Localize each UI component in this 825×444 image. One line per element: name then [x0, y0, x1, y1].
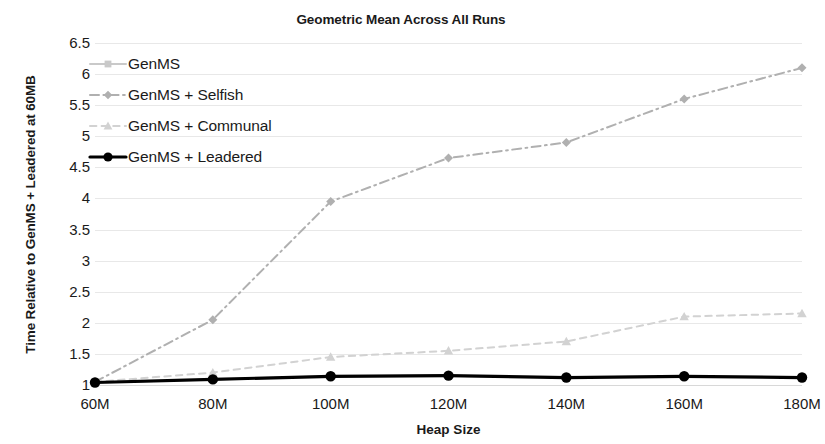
data-point-marker: [105, 60, 112, 67]
data-point-marker: [680, 94, 689, 103]
legend-item-label: GenMS: [128, 55, 180, 73]
legend-item-genms-communal[interactable]: GenMS + Communal: [88, 110, 338, 141]
y-tick-label: 5.5: [44, 97, 90, 112]
legend-item-label: GenMS + Selfish: [128, 86, 243, 104]
data-point-marker: [90, 377, 100, 387]
x-tick-label: 140M: [526, 395, 606, 412]
data-point-marker: [798, 63, 807, 72]
data-point-marker: [103, 152, 112, 161]
legend-item-genms-selfish[interactable]: GenMS + Selfish: [88, 79, 338, 110]
data-point-marker: [561, 372, 571, 382]
y-tick-label: 5: [44, 128, 90, 143]
y-tick-label: 2.5: [44, 284, 90, 299]
y-tick-label: 1.5: [44, 346, 90, 361]
x-tick-label: 100M: [291, 395, 371, 412]
y-tick-label: 4.5: [44, 159, 90, 174]
y-tick-label: 6.5: [44, 35, 90, 50]
y-tick-label: 3.5: [44, 222, 90, 237]
data-point-marker: [325, 371, 335, 381]
data-point-marker: [208, 374, 218, 384]
x-tick-label: 60M: [55, 395, 135, 412]
data-point-marker: [104, 90, 113, 99]
legend-swatch-icon: [88, 150, 128, 164]
legend-swatch-icon: [88, 88, 128, 102]
chart-title: Geometric Mean Across All Runs: [0, 12, 802, 27]
y-tick-label: 1: [44, 377, 90, 392]
gridline: [95, 385, 802, 386]
legend-item-genms-leadered[interactable]: GenMS + Leadered: [88, 141, 338, 172]
y-axis-title: Time Relative to GenMS + Leadered at 60M…: [23, 35, 38, 395]
legend-swatch-icon: [88, 57, 128, 71]
x-tick-label: 80M: [173, 395, 253, 412]
legend-item-label: GenMS + Communal: [128, 117, 272, 135]
legend-item-genms[interactable]: GenMS: [88, 48, 338, 79]
x-tick-label: 120M: [409, 395, 489, 412]
chart-legend: GenMSGenMS + SelfishGenMS + CommunalGenM…: [88, 48, 338, 172]
legend-item-label: GenMS + Leadered: [128, 148, 262, 166]
data-point-marker: [444, 154, 453, 163]
data-point-marker: [679, 371, 689, 381]
y-tick-label: 4: [44, 190, 90, 205]
legend-swatch-icon: [88, 119, 128, 133]
x-tick-label: 180M: [762, 395, 825, 412]
data-point-marker: [443, 370, 453, 380]
y-tick-label: 2: [44, 315, 90, 330]
data-point-marker: [562, 138, 571, 147]
data-point-marker: [797, 372, 807, 382]
x-tick-label: 160M: [644, 395, 724, 412]
y-tick-label: 6: [44, 66, 90, 81]
y-tick-label: 3: [44, 253, 90, 268]
x-axis-title: Heap Size: [95, 422, 802, 437]
